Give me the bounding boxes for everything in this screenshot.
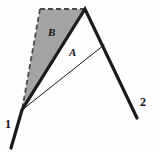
region-label-a: A	[69, 47, 76, 58]
figure-container: B A 1 2	[0, 0, 157, 153]
geometry-figure-svg	[0, 0, 157, 153]
region-label-b: B	[48, 27, 55, 38]
vertex-label-1: 1	[5, 118, 11, 130]
vertex-label-2: 2	[140, 96, 146, 108]
